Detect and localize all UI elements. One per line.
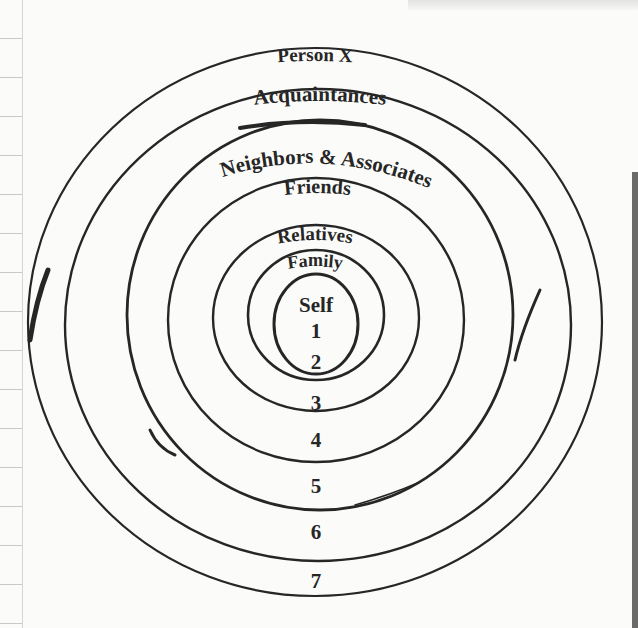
svg-text:Acquaintances: Acquaintances — [252, 82, 388, 110]
label-family: Family — [286, 250, 344, 272]
svg-text:Relatives: Relatives — [276, 223, 355, 248]
label-friends: Friends — [283, 175, 352, 199]
svg-text:Friends: Friends — [283, 175, 352, 199]
concentric-circles-diagram: Person X Acquaintances Neighbors & Assoc… — [0, 0, 638, 628]
label-relatives: Relatives — [276, 223, 355, 248]
ring-number-2: 2 — [311, 350, 322, 374]
ring-number-5: 5 — [311, 474, 322, 498]
svg-text:Family: Family — [286, 250, 344, 272]
label-acquaintances: Acquaintances — [252, 82, 388, 110]
ring-number-4: 4 — [311, 428, 322, 452]
ring-number-1: 1 — [311, 319, 322, 343]
label-person-x: Person X — [277, 44, 354, 66]
ring-number-3: 3 — [311, 391, 322, 415]
ring-number-7: 7 — [311, 569, 322, 593]
ring-number-6: 6 — [311, 520, 322, 544]
svg-text:Person X: Person X — [277, 44, 354, 66]
label-self: Self — [299, 293, 334, 317]
